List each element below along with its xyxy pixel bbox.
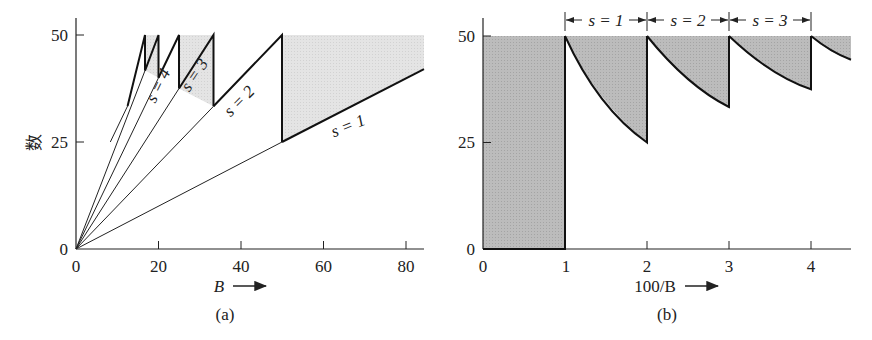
panel-a-y-axis-title: 数 bbox=[25, 134, 44, 151]
panel-a-ytick-label-0: 0 bbox=[60, 240, 69, 259]
panel-b-shaded-block bbox=[483, 36, 565, 249]
panel-a-xtick-label-20: 20 bbox=[150, 257, 167, 276]
panel-b-ytick-label-50: 50 bbox=[458, 27, 475, 46]
panel-b-annotations: s = 1 s = 2 s = 3 bbox=[565, 11, 811, 31]
panel-b-xtick-label-0: 0 bbox=[479, 257, 488, 276]
panel-a-xtick-label-80: 80 bbox=[398, 257, 415, 276]
panel-b-xtick-label-2: 2 bbox=[643, 257, 652, 276]
panel-a: 50 25 0 0 20 40 60 80 数 B s = 4 s = 3 s … bbox=[25, 18, 424, 324]
panel-b-xtick-label-1: 1 bbox=[562, 257, 571, 276]
panel-b-annotation-s3: s = 3 bbox=[752, 11, 787, 30]
panel-b-ytick-label-0: 0 bbox=[467, 240, 476, 259]
panel-b-x-axis-title: 100/B bbox=[634, 277, 676, 296]
panel-b: s = 1 s = 2 s = 3 50 25 0 0 1 2 3 4 100/… bbox=[458, 11, 851, 324]
panel-a-xtick-label-40: 40 bbox=[233, 257, 250, 276]
panel-a-ytick-label-50: 50 bbox=[51, 26, 68, 45]
panel-a-xtick-label-0: 0 bbox=[72, 257, 81, 276]
panel-a-label-s2: s = 2 bbox=[220, 82, 259, 121]
panel-a-x-axis-title: B bbox=[214, 277, 225, 296]
panel-b-caption: (b) bbox=[657, 305, 677, 324]
panel-b-xtick-label-4: 4 bbox=[807, 257, 816, 276]
panel-b-ytick-label-25: 25 bbox=[458, 133, 475, 152]
panel-b-annotation-s1: s = 1 bbox=[588, 11, 623, 30]
panel-a-ytick-label-25: 25 bbox=[51, 133, 68, 152]
figure: 50 25 0 0 20 40 60 80 数 B s = 4 s = 3 s … bbox=[0, 0, 872, 340]
panel-b-xtick-label-3: 3 bbox=[725, 257, 734, 276]
panel-b-annotation-s2: s = 2 bbox=[670, 11, 706, 30]
panel-a-caption: (a) bbox=[216, 305, 235, 324]
panel-a-xtick-label-60: 60 bbox=[315, 257, 332, 276]
